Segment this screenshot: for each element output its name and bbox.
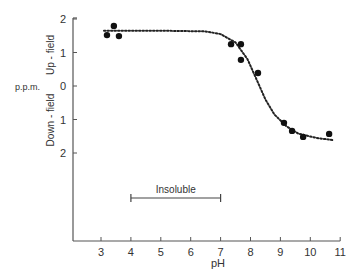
y-axis-down-label: Down - field (45, 94, 56, 147)
x-axis-label: pH (211, 257, 225, 269)
data-point (238, 41, 244, 47)
y-tick-label: 1 (60, 114, 66, 126)
y-axis-up-label: Up - field (45, 35, 56, 75)
y-axis-unit-label: p.p.m. (15, 82, 40, 92)
data-point (228, 41, 234, 47)
data-point (238, 57, 244, 63)
y-tick-label: 2 (60, 147, 66, 159)
data-point (289, 128, 295, 134)
data-point (104, 32, 110, 38)
data-point (111, 23, 117, 29)
data-point (326, 131, 332, 137)
annotations: Insoluble (131, 184, 221, 202)
x-tick-label: 11 (334, 246, 345, 258)
data-point (300, 134, 306, 140)
x-tick-label: 10 (304, 246, 316, 258)
data-point (116, 33, 122, 39)
x-tick-label: 6 (188, 246, 194, 258)
x-tick-label: 8 (247, 246, 253, 258)
x-tick-label: 4 (128, 246, 134, 258)
y-tick-label: 0 (60, 80, 66, 92)
fitted-curve (104, 31, 334, 141)
data-point (255, 70, 261, 76)
x-tick-label: 3 (98, 246, 104, 258)
x-tick-label: 5 (158, 246, 164, 258)
y-tick-label: 1 (60, 47, 66, 59)
insoluble-label: Insoluble (156, 184, 196, 195)
x-tick-label: 9 (277, 246, 283, 258)
ph-shift-chart: 3456789101121012 Insoluble pH p.p.m. Up … (0, 0, 359, 277)
data-points (104, 23, 333, 140)
y-tick-label: 2 (60, 13, 66, 25)
data-point (281, 120, 287, 126)
